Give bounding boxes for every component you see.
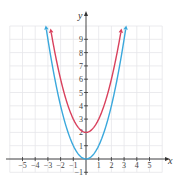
svg-text:1: 1 [97,161,101,170]
svg-text:3: 3 [122,161,126,170]
svg-text:2: 2 [109,161,113,170]
svg-text:−5: −5 [18,161,27,170]
svg-text:1: 1 [79,142,83,151]
svg-text:8: 8 [79,49,83,58]
svg-text:6: 6 [79,75,83,84]
svg-text:−4: −4 [31,161,40,170]
parabola-chart: −5−4−3−2−112345−1123456789 x y [0,0,178,176]
svg-text:5: 5 [148,161,152,170]
svg-text:−1: −1 [74,168,83,176]
svg-text:3: 3 [79,115,83,124]
svg-text:4: 4 [135,161,139,170]
svg-text:9: 9 [79,35,83,44]
y-axis-label: y [77,10,83,21]
svg-text:5: 5 [79,89,83,98]
svg-text:−3: −3 [44,161,53,170]
svg-text:4: 4 [79,102,83,111]
x-axis-label: x [167,155,173,166]
svg-text:−2: −2 [56,161,65,170]
axes [6,11,170,175]
svg-text:7: 7 [79,62,83,71]
